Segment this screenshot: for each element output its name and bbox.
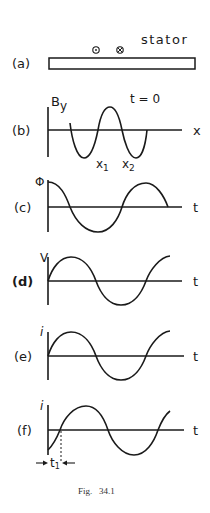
x2-label: x2 — [122, 157, 135, 173]
i-axis-label: i — [40, 399, 44, 413]
t-axis-label: t — [193, 274, 198, 289]
by-axis-label: By — [51, 94, 67, 113]
t-axis-label: t — [193, 423, 198, 438]
panel-d-label: (d) — [12, 274, 33, 289]
t-axis-label: t — [193, 349, 198, 364]
i-axis-label: i — [40, 325, 44, 339]
panel-a: (a) stator — [12, 32, 195, 71]
stator-bar — [49, 58, 195, 69]
panel-b-label: (b) — [12, 123, 30, 138]
t-axis-label: t — [193, 200, 198, 215]
panel-d: (d) V t — [12, 251, 198, 305]
phi-axis-label: Φ — [35, 175, 44, 189]
current-out-of-page-icon — [93, 47, 99, 53]
panel-e-label: (e) — [14, 349, 32, 364]
by-wave — [70, 107, 147, 158]
figure-34-1: (a) stator (b) By t = 0 x x1 x2 (c) Φ t — [0, 0, 210, 513]
t1-label: t1 — [50, 456, 60, 471]
figure-caption: Fig. 34.1 — [78, 486, 115, 496]
panel-c: (c) Φ t — [14, 175, 198, 232]
stator-label: stator — [141, 32, 188, 47]
panel-a-label: (a) — [12, 56, 30, 71]
time-zero-annotation: t = 0 — [130, 92, 160, 106]
current-into-page-icon — [117, 47, 123, 53]
panel-f-label: (f) — [17, 423, 32, 438]
panel-f: (f) i t t1 — [17, 399, 198, 471]
x1-label: x1 — [96, 157, 109, 173]
panel-b: (b) By t = 0 x x1 x2 — [12, 92, 201, 173]
panel-e: (e) i t — [14, 325, 198, 380]
panel-c-label: (c) — [14, 200, 31, 215]
x-axis-label: x — [193, 123, 201, 138]
